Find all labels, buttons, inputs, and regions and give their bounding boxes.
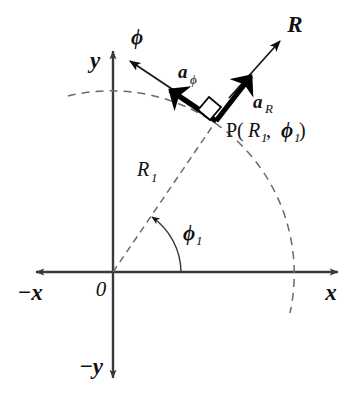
radius-label-base: R: [136, 158, 149, 180]
x-negative-axis-label: −x: [17, 280, 42, 305]
angle-label-subscript: 1: [196, 233, 203, 248]
diagram-canvas: x −x y −y 0 ϕ R a R a ϕ P( R 1 , ϕ 1: [0, 0, 361, 403]
radius-label-subscript: 1: [151, 170, 158, 185]
point-P-close: ): [299, 119, 306, 142]
y-negative-axis-label: −y: [79, 354, 104, 379]
point-P-label: P( R 1 , ϕ 1 ): [226, 118, 306, 145]
angle-arc-phi1: [152, 217, 181, 272]
point-P-R: R: [247, 119, 260, 141]
unit-vector-aR-base: a: [253, 91, 263, 112]
x-positive-axis-label: x: [324, 280, 337, 305]
point-P-prefix: P(: [226, 119, 244, 142]
point-P-comma: ,: [266, 119, 271, 141]
R-direction-label: R: [286, 12, 302, 37]
direction-arrow-R: [229, 41, 280, 98]
radius-label: R 1: [136, 158, 158, 185]
y-positive-axis-label: y: [87, 48, 101, 73]
unit-vector-aphi-label: a ϕ: [178, 61, 197, 87]
unit-vector-aphi-subscript: ϕ: [190, 72, 197, 87]
unit-vector-aR-label: a R: [253, 91, 273, 116]
direction-arrow-phi: [130, 61, 175, 91]
polar-coordinate-diagram: x −x y −y 0 ϕ R a R a ϕ P( R 1 , ϕ 1: [0, 0, 361, 403]
angle-label-base: ϕ: [183, 221, 195, 245]
phi-direction-label: ϕ: [131, 25, 143, 49]
unit-vector-aphi-base: a: [178, 61, 188, 82]
angle-label: ϕ 1: [183, 221, 203, 248]
origin-label: 0: [96, 277, 107, 301]
unit-vector-aR-subscript: R: [264, 101, 273, 116]
unit-vector-aR-arrow: [216, 76, 251, 121]
radius-line-dashed: [113, 121, 216, 272]
point-P-phi: ϕ: [281, 118, 293, 142]
